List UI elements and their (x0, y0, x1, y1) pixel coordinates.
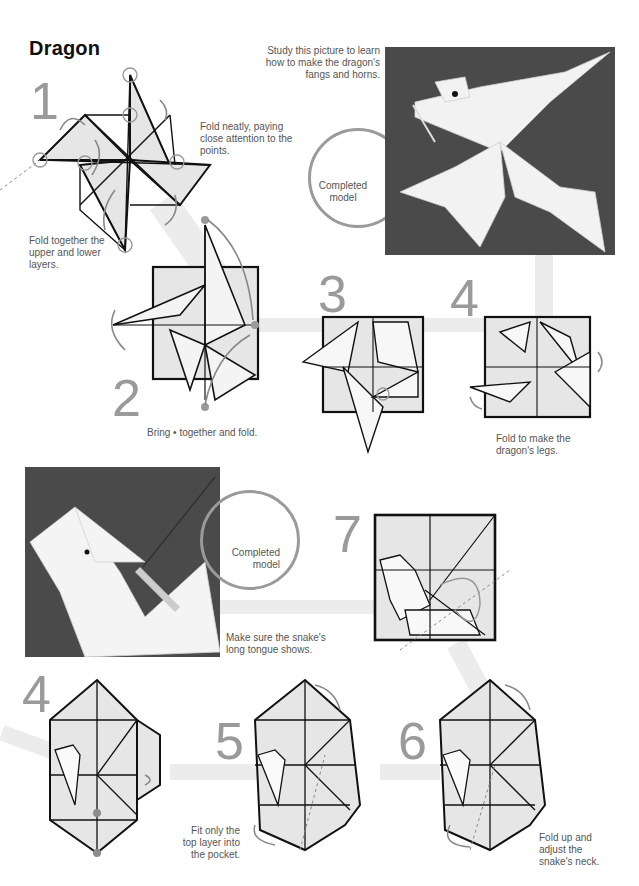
completed-model-ring (200, 490, 300, 590)
step-number: 5 (215, 715, 244, 767)
snake-completed-photo (25, 467, 220, 657)
step-number: 6 (398, 715, 427, 767)
path-band-photo-step4 (535, 250, 553, 320)
dragon-model-shape (385, 47, 615, 255)
step2-note: Bring • together and fold. (147, 427, 287, 439)
step1-note-layers: Fold together the upper and lower layers… (29, 235, 114, 271)
snake-step4-diagram (45, 675, 175, 855)
completed-model-label: Completed model (318, 180, 368, 204)
step-number: 2 (112, 372, 141, 424)
page-title: Dragon (29, 37, 100, 60)
snake-photo-caption: Make sure the snake's long tongue shows. (226, 632, 336, 656)
snake-step6-diagram (435, 675, 555, 855)
path-band-snake-step7 (218, 600, 378, 614)
dragon-photo-caption: Study this picture to learn how to make … (250, 45, 380, 81)
snake-model-shape (25, 467, 220, 657)
snake-step6-note: Fold up and adjust the snake's neck. (539, 832, 609, 868)
step1-note-points: Fold neatly, paying close attention to t… (200, 121, 295, 157)
step3-diagram (298, 312, 438, 462)
step4-note: Fold to make the dragon's legs. (496, 433, 596, 457)
completed-model-label: Completed model (225, 547, 280, 571)
snake-step7-diagram (370, 510, 515, 645)
dragon-completed-photo (385, 47, 615, 255)
snake-step5-note: Fit only the top layer into the pocket. (175, 825, 240, 861)
step4-diagram (470, 312, 620, 422)
step-number: 7 (333, 508, 362, 560)
snake-step5-diagram (250, 675, 370, 855)
